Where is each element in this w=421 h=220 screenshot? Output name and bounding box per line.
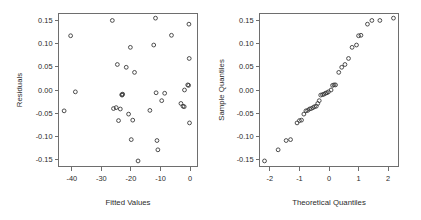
data-point	[187, 57, 191, 61]
data-point	[155, 139, 159, 143]
y-axis-ticks-left: 0.150.100.050.00-0.05-0.10-0.15	[36, 16, 59, 164]
x-tick-label: 0	[188, 174, 192, 183]
y-axis-title-right: Sample Quantiles	[217, 59, 226, 121]
data-point	[378, 19, 382, 23]
data-point	[117, 119, 121, 123]
data-point	[295, 121, 299, 125]
data-point	[115, 63, 119, 67]
y-tick-label: -0.10	[36, 132, 53, 141]
data-point	[136, 159, 140, 163]
y-tick-label: -0.05	[237, 109, 254, 118]
y-tick-label: 0.05	[239, 62, 253, 71]
data-point	[110, 19, 114, 23]
y-tick-label: 0.00	[38, 86, 52, 95]
x-tick-label: -20	[126, 174, 137, 183]
data-point	[118, 107, 122, 111]
x-axis-title-left: Fitted Values	[106, 198, 151, 207]
data-point	[129, 138, 133, 142]
data-point	[156, 148, 160, 152]
y-tick-label: 0.15	[38, 16, 52, 25]
y-axis-ticks-right: 0.150.100.050.00-0.05-0.10-0.15	[237, 16, 260, 164]
data-point	[188, 121, 192, 125]
data-point	[148, 109, 152, 113]
x-tick-label: -1	[296, 174, 303, 183]
residuals-vs-fitted-plot: 0.150.100.050.00-0.05-0.10-0.15 -40-30-2…	[0, 0, 211, 220]
panel-normal-qq: 0.150.100.050.00-0.05-0.10-0.15 -2-1012 …	[211, 0, 421, 220]
data-point	[355, 43, 359, 47]
data-points-right	[263, 16, 396, 163]
data-point	[183, 88, 187, 92]
data-point	[284, 139, 288, 143]
plot-frame-left	[59, 14, 198, 167]
data-point	[154, 91, 158, 95]
data-point	[347, 57, 351, 61]
normal-qq-plot: 0.150.100.050.00-0.05-0.10-0.15 -2-1012 …	[211, 0, 421, 220]
data-point	[128, 45, 132, 49]
data-points-left	[62, 16, 191, 163]
data-point	[370, 19, 374, 23]
data-point	[289, 138, 293, 142]
data-point	[350, 45, 354, 49]
data-point	[124, 65, 128, 69]
x-axis-title-right: Theoretical Quantiles	[292, 198, 366, 207]
data-point	[133, 70, 137, 74]
y-tick-label: 0.05	[38, 62, 52, 71]
x-tick-label: -2	[267, 174, 274, 183]
data-point	[163, 91, 167, 95]
data-point	[359, 33, 363, 37]
y-tick-label: 0.10	[239, 39, 253, 48]
data-point	[263, 159, 267, 163]
data-point	[62, 109, 66, 113]
data-point	[69, 34, 73, 38]
x-axis-ticks-left: -40-30-20-100	[66, 167, 192, 183]
data-point	[187, 22, 191, 26]
y-tick-label: -0.10	[237, 132, 254, 141]
figure-container: 0.150.100.050.00-0.05-0.10-0.15 -40-30-2…	[0, 0, 421, 220]
data-point	[160, 99, 164, 103]
x-tick-label: -40	[66, 174, 77, 183]
data-point	[392, 16, 396, 20]
x-tick-label: 1	[357, 174, 361, 183]
data-point	[366, 22, 370, 26]
data-point	[276, 148, 280, 152]
panel-residuals-vs-fitted: 0.150.100.050.00-0.05-0.10-0.15 -40-30-2…	[0, 0, 211, 220]
data-point	[152, 43, 156, 47]
data-point	[131, 118, 135, 122]
y-tick-label: 0.00	[239, 86, 253, 95]
x-tick-label: 0	[327, 174, 331, 183]
y-axis-title-left: Residuals	[15, 73, 24, 107]
data-point	[127, 112, 131, 116]
data-point	[73, 90, 77, 94]
y-tick-label: -0.05	[36, 109, 53, 118]
x-axis-ticks-right: -2-1012	[267, 167, 391, 183]
y-tick-label: -0.15	[36, 155, 53, 164]
y-tick-label: 0.10	[38, 39, 52, 48]
x-tick-label: -10	[155, 174, 166, 183]
data-point	[154, 16, 158, 20]
data-point	[343, 63, 347, 67]
y-tick-label: -0.15	[237, 155, 254, 164]
data-point	[337, 70, 341, 74]
data-point	[170, 33, 174, 37]
data-point	[340, 65, 344, 69]
x-tick-label: 2	[386, 174, 390, 183]
x-tick-label: -30	[96, 174, 107, 183]
y-tick-label: 0.15	[239, 16, 253, 25]
